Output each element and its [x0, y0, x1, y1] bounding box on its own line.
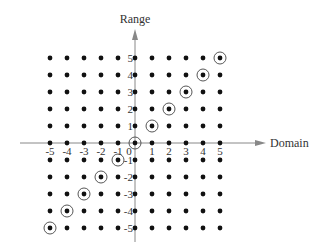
lattice-point — [82, 107, 87, 112]
lattice-point — [218, 141, 223, 146]
lattice-point — [184, 141, 189, 146]
lattice-point — [99, 124, 104, 129]
lattice-point — [116, 158, 121, 163]
lattice-point — [48, 56, 53, 61]
lattice-point — [218, 192, 223, 197]
lattice-point — [65, 141, 70, 146]
lattice-point — [167, 226, 172, 231]
x-axis-arrow-icon — [255, 140, 266, 146]
lattice-point — [150, 192, 155, 197]
lattice-point — [201, 90, 206, 95]
lattice-point — [218, 209, 223, 214]
lattice-point — [201, 209, 206, 214]
lattice-point — [99, 90, 104, 95]
lattice-point — [218, 158, 223, 163]
lattice-point — [65, 73, 70, 78]
lattice-point — [116, 226, 121, 231]
lattice-point — [201, 73, 206, 78]
lattice-point — [150, 56, 155, 61]
lattice-point — [116, 124, 121, 129]
y-axis-label: Range — [120, 12, 151, 26]
lattice-point — [184, 226, 189, 231]
lattice-point — [99, 226, 104, 231]
x-tick-label: -3 — [79, 145, 89, 157]
lattice-point — [116, 73, 121, 78]
lattice-point — [116, 90, 121, 95]
y-tick-label: 1 — [128, 120, 134, 132]
lattice-point — [133, 175, 138, 180]
y-tick-label: -4 — [124, 205, 134, 217]
y-tick-label: -2 — [124, 171, 133, 183]
lattice-point — [184, 209, 189, 214]
lattice-point — [150, 209, 155, 214]
lattice-point — [116, 175, 121, 180]
lattice-point — [65, 192, 70, 197]
lattice-point — [201, 226, 206, 231]
lattice-point — [167, 107, 172, 112]
lattice-point — [150, 158, 155, 163]
lattice-point — [167, 192, 172, 197]
lattice-point — [150, 124, 155, 129]
lattice-point — [99, 141, 104, 146]
lattice-point — [99, 175, 104, 180]
lattice-point — [82, 175, 87, 180]
lattice-diagram: Range Domain -5-4-3-2-1012345-5-4-3-2-11… — [0, 0, 310, 247]
lattice-point — [184, 192, 189, 197]
lattice-point — [150, 90, 155, 95]
lattice-point — [99, 192, 104, 197]
lattice-point — [82, 141, 87, 146]
lattice-point — [82, 158, 87, 163]
lattice-point — [133, 124, 138, 129]
lattice-point — [133, 141, 138, 146]
x-tick-label: 5 — [217, 145, 223, 157]
lattice-point — [99, 107, 104, 112]
lattice-point — [65, 107, 70, 112]
y-tick-label: -1 — [124, 154, 133, 166]
lattice-point — [133, 209, 138, 214]
lattice-point — [184, 107, 189, 112]
lattice-point — [184, 90, 189, 95]
lattice-point — [133, 226, 138, 231]
lattice-point — [116, 192, 121, 197]
x-axis-label: Domain — [270, 136, 309, 150]
lattice-point — [218, 73, 223, 78]
x-tick-label: 1 — [149, 145, 155, 157]
lattice-point — [218, 175, 223, 180]
y-tick-label: 2 — [128, 103, 134, 115]
lattice-point — [65, 226, 70, 231]
lattice-point — [48, 209, 53, 214]
x-tick-label: -2 — [96, 145, 105, 157]
lattice-point — [218, 107, 223, 112]
lattice-point — [150, 226, 155, 231]
lattice-point — [133, 158, 138, 163]
lattice-point — [133, 56, 138, 61]
lattice-point — [218, 226, 223, 231]
lattice-point — [82, 56, 87, 61]
lattice-point — [150, 175, 155, 180]
lattice-point — [201, 141, 206, 146]
lattice-point — [167, 124, 172, 129]
lattice-point — [99, 158, 104, 163]
lattice-point — [133, 107, 138, 112]
lattice-point — [167, 209, 172, 214]
lattice-point — [133, 90, 138, 95]
lattice-point — [99, 56, 104, 61]
lattice-point — [48, 107, 53, 112]
x-tick-label: 3 — [183, 145, 189, 157]
lattice-point — [82, 209, 87, 214]
lattice-point — [116, 141, 121, 146]
lattice-point — [218, 124, 223, 129]
lattice-point — [48, 124, 53, 129]
lattice-point — [133, 192, 138, 197]
lattice-point — [116, 107, 121, 112]
lattice-point — [99, 73, 104, 78]
x-tick-label: -4 — [62, 145, 72, 157]
y-axis-arrow-icon — [132, 29, 138, 40]
y-tick-label: -3 — [124, 188, 134, 200]
lattice-point — [65, 90, 70, 95]
lattice-point — [167, 90, 172, 95]
lattice-point — [65, 175, 70, 180]
lattice-point — [65, 56, 70, 61]
lattice-point — [167, 158, 172, 163]
lattice-point — [184, 158, 189, 163]
